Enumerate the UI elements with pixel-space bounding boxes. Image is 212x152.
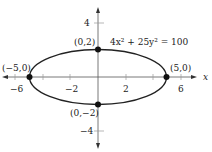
x-tick-label-6: 6 (178, 84, 184, 94)
point-right-label: (5,0) (170, 63, 191, 73)
point-bottom-label: (0,−2) (70, 108, 99, 118)
x-tick-label-neg2: −2 (65, 84, 78, 94)
x-axis-left-arrow-icon (2, 75, 8, 79)
y-axis-down-arrow-icon (96, 143, 100, 149)
x-axis-right-arrow-icon (191, 75, 197, 79)
y-tick-label-4: 4 (84, 18, 90, 28)
y-tick-label-neg4: −4 (80, 126, 94, 136)
point-top (95, 47, 101, 53)
x-axis-label: x (203, 72, 208, 82)
x-tick-label-2: 2 (123, 84, 129, 94)
point-left (27, 74, 33, 80)
ellipse-graph: 4x² + 25y² = 100 (0,2) (−5,0) (5,0) (0,−… (0, 0, 212, 152)
point-left-label: (−5,0) (2, 63, 31, 73)
point-right (164, 74, 170, 80)
y-axis-up-arrow-icon (96, 7, 100, 13)
equation-label: 4x² + 25y² = 100 (110, 37, 189, 47)
x-tick-label-neg6: −6 (10, 84, 24, 94)
point-bottom (95, 102, 101, 108)
point-top-label: (0,2) (74, 37, 95, 47)
